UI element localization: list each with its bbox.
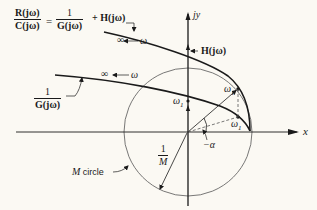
omega1-upper-label: ω1 <box>224 84 235 97</box>
equation-lhs-den: C(jω) <box>14 21 41 31</box>
omega-upper: ω <box>140 36 147 46</box>
radius-label: 1 M <box>158 144 168 167</box>
omega-lower: ω <box>131 70 138 80</box>
equation-equals: = <box>46 16 52 27</box>
inv-g-leader <box>66 78 82 96</box>
equation-rhs-den: G(jω) <box>56 21 83 31</box>
x-axis-label: x <box>303 126 308 137</box>
h-label: H(jω) <box>201 46 226 56</box>
m-circle-label: M circle <box>72 167 104 177</box>
alpha-label: −α <box>203 140 215 150</box>
equation-rhs: 1 G(jω) <box>56 8 83 31</box>
x-axis-arrow-icon <box>288 129 299 135</box>
radius-num: 1 <box>160 144 167 154</box>
radius-den: M <box>158 157 168 167</box>
y-axis-arrow-icon <box>186 12 191 20</box>
equation-rhs-num: 1 <box>66 8 73 18</box>
infinity-lower: ∞ <box>101 69 108 79</box>
m-circle-leader <box>113 166 128 172</box>
inv-g-den: G(jω) <box>34 100 61 110</box>
h-vector-arrow-icon <box>186 44 190 50</box>
omega1-axis-label: ω1 <box>173 96 184 109</box>
equation-lhs-num: R(jω) <box>14 8 41 18</box>
inv-g-label: 1 G(jω) <box>34 87 61 110</box>
equation-plus-h: + H(jω) <box>92 13 125 23</box>
curve-inv-g <box>55 75 250 131</box>
omega1-axis-arrow-icon <box>186 105 190 111</box>
alpha-arc <box>204 118 207 132</box>
equation-lhs: R(jω) C(jω) <box>14 8 41 31</box>
omega1-lower-label: ω1 <box>231 119 242 132</box>
inv-g-num: 1 <box>44 87 51 97</box>
y-axis-label: jy <box>193 10 200 20</box>
equation-leader <box>126 23 134 31</box>
infinity-upper: ∞ <box>117 35 124 45</box>
omega1-axis-point <box>186 99 189 102</box>
